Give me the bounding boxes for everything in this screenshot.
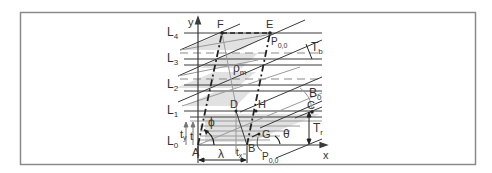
- label-lambda: λ: [218, 147, 224, 161]
- y-axis-label: y: [188, 16, 194, 28]
- label-t: t: [190, 130, 193, 142]
- label-D: D: [230, 98, 238, 110]
- x-axis-label: x: [323, 149, 329, 161]
- label-theta: θ: [283, 127, 290, 141]
- label-G: G: [262, 128, 271, 140]
- label-F: F: [217, 18, 224, 30]
- label-E: E: [266, 18, 273, 30]
- label-C: C: [307, 99, 315, 111]
- label-phi: ϕ: [208, 115, 215, 129]
- diagram-figure: L4 L3 L2 L1 L0 y x F E D H C G A B ϕ θ λ…: [0, 0, 492, 173]
- diagram-canvas: L4 L3 L2 L1 L0 y x F E D H C G A B ϕ θ λ…: [0, 0, 492, 173]
- label-H: H: [258, 98, 266, 110]
- label-A: A: [192, 146, 200, 158]
- label-B: B: [248, 142, 255, 154]
